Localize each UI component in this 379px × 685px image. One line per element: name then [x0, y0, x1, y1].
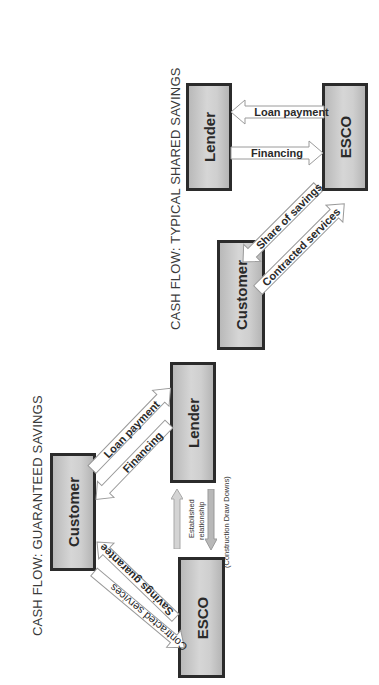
guaranteed-lender-label: Lender [185, 397, 202, 447]
relationship-up-arrow [171, 489, 183, 549]
shared-financing-label: Financing [251, 147, 303, 159]
shared-customer-label: Customer [233, 260, 250, 330]
shared-loan-payment-arrow: Loan payment [231, 103, 324, 121]
construction-draw-downs-note: (Construction Draw Downs) [222, 476, 231, 568]
shared-esco-box: ESCO [322, 83, 368, 191]
guaranteed-customer-box: Customer [50, 453, 96, 571]
shared-loan-payment-label: Loan payment [254, 106, 329, 118]
guaranteed-savings-title: CASH FLOW: GUARANTEED SAVINGS [30, 395, 45, 636]
guaranteed-customer-label: Customer [65, 477, 82, 547]
shared-lender-box: Lender [186, 83, 232, 191]
shared-financing-arrow: Financing [231, 144, 323, 162]
construction-draw-down-arrow [205, 489, 217, 550]
shared-lender-label: Lender [201, 112, 218, 162]
shared-contracted-services-label: Contracted services [260, 205, 343, 288]
arrow-up-icon [171, 489, 183, 549]
arrow-down-icon [205, 489, 217, 550]
relationship-label-line1: Established [187, 499, 196, 538]
guaranteed-esco-label: ESCO [193, 596, 210, 639]
shared-savings-title: CASH FLOW: TYPICAL SHARED SAVINGS [168, 67, 183, 330]
shared-esco-label: ESCO [337, 116, 354, 159]
